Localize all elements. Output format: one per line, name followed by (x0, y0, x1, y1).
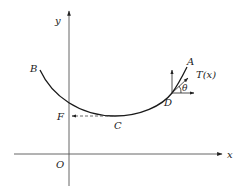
cable-curve (40, 67, 187, 116)
point-label-b: B (29, 63, 37, 74)
point-label-f: F (56, 111, 65, 122)
origin-label: O (56, 159, 64, 170)
angle-label: θ (182, 83, 188, 93)
point-label-d: D (163, 97, 172, 108)
x-axis-label: x (227, 149, 233, 160)
point-label-c: C (114, 120, 122, 131)
y-axis-label: y (54, 15, 61, 26)
cable-diagram: x y O B C F D A T(x) θ (0, 0, 242, 193)
point-label-a: A (186, 56, 194, 67)
tension-label: T(x) (196, 69, 216, 80)
angle-arc (179, 86, 181, 93)
